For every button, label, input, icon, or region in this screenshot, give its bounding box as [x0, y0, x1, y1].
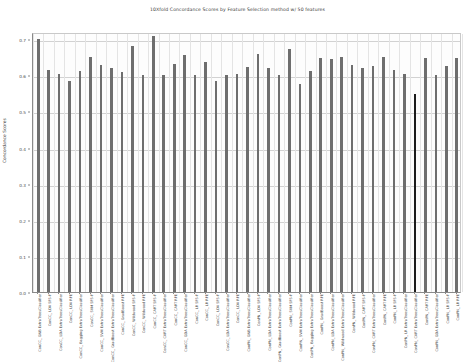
x-tick-label: ConCC_ LDA ExtraTreesClassifier: [60, 294, 64, 351]
x-tick-label: ConCC_ LDA ExtraTreesClassifier: [227, 294, 231, 351]
y-tick-label: 0.0: [19, 291, 26, 296]
x-tick-label: ConPN_ CART RFE: [426, 294, 430, 325]
bar[interactable]: [152, 36, 155, 292]
bar[interactable]: [37, 39, 40, 292]
bar[interactable]: [194, 75, 197, 292]
gridline-vertical: [159, 34, 160, 292]
bar[interactable]: [58, 74, 61, 292]
x-tick-label: ConPN_ GradBoost RFE: [321, 294, 325, 335]
bar[interactable]: [267, 68, 270, 292]
gridline-vertical: [336, 34, 337, 292]
x-tick-label: ConCC_ LR SFS-F: [196, 294, 200, 324]
gridline-vertical: [117, 34, 118, 292]
bar[interactable]: [131, 46, 134, 292]
y-tick-label: 0.6: [19, 74, 26, 79]
bar[interactable]: [278, 75, 281, 292]
y-tick-mark: [28, 76, 30, 77]
bar[interactable]: [110, 68, 113, 292]
x-tick-label: ConCC_ CART RFE: [175, 294, 179, 325]
x-tick-label: ConPN_ LDA ExtraTreesClassifier: [332, 294, 336, 351]
gridline-vertical: [200, 34, 201, 292]
bar[interactable]: [142, 75, 145, 292]
y-tick-mark: [28, 40, 30, 41]
x-tick-label: ConCC_ CART ExtraTreesClassifier: [164, 294, 168, 353]
chart-title: 10Xfold Concordance Scores by Feature Se…: [0, 7, 475, 12]
gridline-vertical: [221, 34, 222, 292]
x-tick-label: ConPN_ LDA ExtraTreesClassifier: [269, 294, 273, 351]
y-tick-mark: [28, 148, 30, 149]
bar[interactable]: [330, 59, 333, 292]
gridline-vertical: [232, 34, 233, 292]
gridline-vertical: [148, 34, 149, 292]
plot-area: [32, 33, 461, 293]
gridline-vertical: [127, 34, 128, 292]
bar[interactable]: [47, 70, 50, 292]
bar[interactable]: [414, 94, 417, 292]
bar[interactable]: [445, 66, 448, 292]
x-tick-label: ConPN_ GradBoost ExtraTreesClassifier: [279, 294, 283, 362]
y-tick-mark: [28, 293, 30, 294]
gridline-vertical: [33, 34, 34, 292]
bar[interactable]: [424, 58, 427, 292]
bar[interactable]: [246, 67, 249, 292]
bar[interactable]: [393, 70, 396, 292]
gridline-vertical: [347, 34, 348, 292]
bar[interactable]: [319, 58, 322, 292]
bar[interactable]: [89, 57, 92, 292]
gridline-vertical: [54, 34, 55, 292]
x-axis: ConCC_ GNB ExtraTreesClassifierConCC_ LD…: [32, 294, 461, 358]
bar[interactable]: [455, 58, 458, 292]
x-tick-label: ConCC_ LDA SFS-F: [217, 294, 221, 326]
bar[interactable]: [162, 75, 165, 292]
bar[interactable]: [100, 65, 103, 292]
bar[interactable]: [79, 71, 82, 292]
x-tick-label: ConPN_ CART SFS-F: [363, 294, 367, 328]
gridline-vertical: [462, 34, 463, 292]
gridline-vertical: [295, 34, 296, 292]
bar[interactable]: [361, 68, 364, 292]
bar[interactable]: [435, 75, 438, 292]
bar[interactable]: [183, 55, 186, 292]
x-tick-label: ConCC_ GDA ExtraTreesClassifier: [185, 294, 189, 352]
x-tick-label: ConPN_ Wildwood ExtraTreesClassifier: [342, 294, 346, 361]
gridline-vertical: [138, 34, 139, 292]
bar[interactable]: [382, 57, 385, 292]
bar[interactable]: [173, 64, 176, 292]
gridline-vertical: [452, 34, 453, 292]
bar[interactable]: [68, 81, 71, 292]
x-tick-label: ConPN_ SVM SFS-F: [290, 294, 294, 327]
x-tick-label: ConPN_ CART RFE: [384, 294, 388, 325]
gridline-vertical: [64, 34, 65, 292]
gridline-vertical: [431, 34, 432, 292]
gridline-vertical: [326, 34, 327, 292]
bar[interactable]: [288, 49, 291, 292]
gridline-vertical: [96, 34, 97, 292]
bar[interactable]: [215, 81, 218, 292]
x-tick-label: ConPN_ LDA SFS-F: [258, 294, 262, 326]
bar[interactable]: [340, 57, 343, 292]
x-tick-label: ConCC_ GradBoost RFE: [122, 294, 126, 335]
x-tick-label: ConCC_ Wildwood RFE: [143, 294, 147, 333]
gridline-vertical: [368, 34, 369, 292]
bar[interactable]: [236, 74, 239, 292]
x-tick-label: ConPN_ LR SFS-F: [394, 294, 398, 324]
bar[interactable]: [204, 62, 207, 292]
gridline-vertical: [305, 34, 306, 292]
gridline-vertical: [190, 34, 191, 292]
bar[interactable]: [309, 71, 312, 292]
bar[interactable]: [121, 72, 124, 292]
bar[interactable]: [257, 54, 260, 292]
bar[interactable]: [372, 66, 375, 292]
gridline-vertical: [389, 34, 390, 292]
gridline-vertical: [441, 34, 442, 292]
bar[interactable]: [299, 84, 302, 292]
bar[interactable]: [225, 75, 228, 292]
x-tick-label: ConPN_ Bagging ExtraTreesClassifier: [311, 294, 315, 358]
bar[interactable]: [403, 74, 406, 292]
y-tick-mark: [28, 184, 30, 185]
gridline-vertical: [378, 34, 379, 292]
bar[interactable]: [351, 65, 354, 293]
gridline-vertical: [357, 34, 358, 292]
gridline-vertical: [75, 34, 76, 292]
